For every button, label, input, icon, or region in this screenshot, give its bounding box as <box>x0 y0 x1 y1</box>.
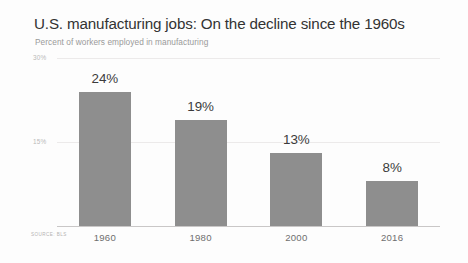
x-axis-label-1960: 1960 <box>65 232 145 243</box>
bar-value-label-2016: 8% <box>352 160 432 175</box>
source-note: SOURCE: BLS <box>31 232 67 237</box>
x-axis-label-2000: 2000 <box>256 232 336 243</box>
bar-2000 <box>270 153 322 226</box>
x-axis-label-1980: 1980 <box>161 232 241 243</box>
chart-figure: U.S. manufacturing jobs: On the decline … <box>0 0 468 263</box>
bar-2016 <box>366 181 418 226</box>
bar-value-label-2000: 13% <box>256 132 336 147</box>
x-axis-line <box>57 226 440 227</box>
bar-value-label-1980: 19% <box>161 99 241 114</box>
bar-1980 <box>175 120 227 226</box>
bar-1960 <box>79 92 131 226</box>
x-axis-label-2016: 2016 <box>352 232 432 243</box>
bar-value-label-1960: 24% <box>65 71 145 86</box>
gridline-30pct <box>57 58 440 59</box>
y-axis-tick-label: 15% <box>33 138 46 145</box>
y-axis-tick-label: 30% <box>33 54 46 61</box>
plot-area: 15%30%24%196019%198013%20008%2016 <box>0 0 468 263</box>
